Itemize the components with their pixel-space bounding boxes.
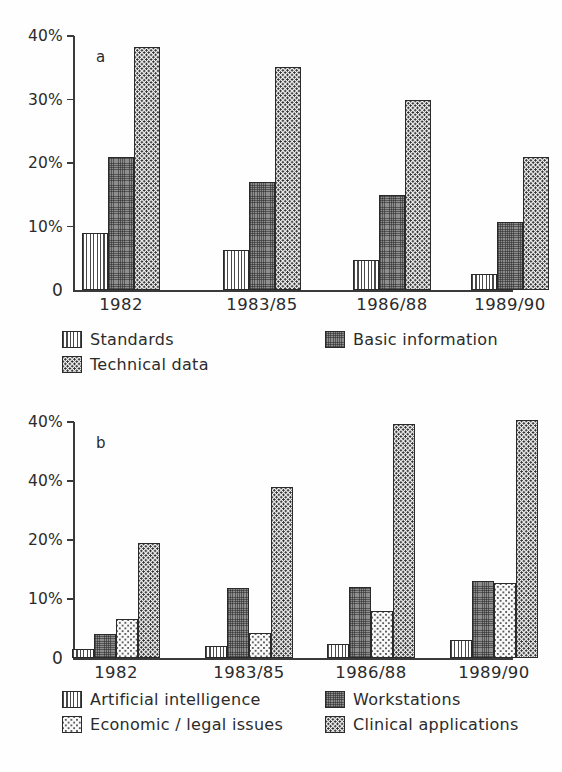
legend-label-a-0: Standards xyxy=(90,330,174,349)
bars-a-0 xyxy=(82,36,160,290)
plot-area-b: 010%20%40%40%19821983/851986/881989/90 xyxy=(73,422,513,658)
x-axis-line-b xyxy=(73,658,513,660)
legend-swatch-icon-b-1 xyxy=(325,691,345,708)
bar-group-a-0: 1982 xyxy=(82,36,160,290)
bar-a-0-2 xyxy=(134,47,160,290)
bar-b-3-2 xyxy=(494,583,516,658)
bars-b-0 xyxy=(72,422,160,658)
y-tick-a-2 xyxy=(67,162,74,164)
plot-area-a: 010%20%30%40%19821983/851986/881989/90 xyxy=(73,36,513,290)
y-tick-label-b-0: 0 xyxy=(1,648,63,668)
bar-b-1-0 xyxy=(205,646,227,658)
bar-a-1-2 xyxy=(275,67,301,290)
bar-b-3-0 xyxy=(450,640,472,658)
legend-label-b-2: Economic / legal issues xyxy=(90,715,283,734)
panel-letter-a: a xyxy=(96,48,105,66)
bar-b-0-2 xyxy=(116,619,138,658)
legend-swatch-icon-a-0 xyxy=(62,331,82,348)
bar-group-a-3: 1989/90 xyxy=(471,36,549,290)
bar-group-b-0: 1982 xyxy=(72,422,160,658)
legend-a: StandardsBasic informationTechnical data xyxy=(0,330,562,380)
x-axis-line-a xyxy=(73,290,513,292)
bar-group-a-2: 1986/88 xyxy=(353,36,431,290)
bar-a-2-2 xyxy=(405,100,431,290)
bar-group-b-1: 1983/85 xyxy=(205,422,293,658)
legend-swatch-icon-b-3 xyxy=(325,716,345,733)
legend-item-b-3[interactable]: Clinical applications xyxy=(325,715,519,734)
bar-b-2-0 xyxy=(327,644,349,658)
x-axis-label-b-0: 1982 xyxy=(94,663,138,682)
bar-b-2-1 xyxy=(349,587,371,658)
legend-label-b-1: Workstations xyxy=(353,690,461,709)
legend-item-b-1[interactable]: Workstations xyxy=(325,690,461,709)
bar-b-3-1 xyxy=(472,581,494,658)
legend-label-b-3: Clinical applications xyxy=(353,715,519,734)
x-axis-label-b-2: 1986/88 xyxy=(335,663,406,682)
bar-a-3-1 xyxy=(497,222,523,290)
bars-a-1 xyxy=(223,36,301,290)
legend-item-a-1[interactable]: Basic information xyxy=(325,330,498,349)
bar-b-0-3 xyxy=(138,543,160,658)
bars-b-1 xyxy=(205,422,293,658)
x-axis-label-a-3: 1989/90 xyxy=(474,295,545,314)
legend-row-b-1: Economic / legal issuesClinical applicat… xyxy=(0,715,562,740)
y-tick-a-4 xyxy=(67,35,74,37)
bar-b-1-2 xyxy=(249,633,271,658)
y-tick-label-b-3: 40% xyxy=(1,472,63,490)
bar-group-b-3: 1989/90 xyxy=(450,422,538,658)
legend-swatch-icon-b-0 xyxy=(62,691,82,708)
bars-b-3 xyxy=(450,422,538,658)
bar-b-1-1 xyxy=(227,588,249,658)
legend-b: Artificial intelligenceWorkstationsEcono… xyxy=(0,690,562,740)
y-tick-label-b-4: 40% xyxy=(1,413,63,431)
bars-a-2 xyxy=(353,36,431,290)
y-tick-label-a-3: 30% xyxy=(1,90,63,108)
chart-panel-b: 010%20%40%40%19821983/851986/881989/90 b… xyxy=(0,390,562,772)
legend-label-a-2: Technical data xyxy=(90,355,209,374)
x-axis-label-b-3: 1989/90 xyxy=(458,663,529,682)
y-tick-label-a-0: 0 xyxy=(1,280,63,300)
legend-item-b-2[interactable]: Economic / legal issues xyxy=(62,715,283,734)
x-axis-label-a-2: 1986/88 xyxy=(356,295,427,314)
bar-b-2-2 xyxy=(371,611,393,658)
legend-row-b-0: Artificial intelligenceWorkstations xyxy=(0,690,562,715)
legend-item-a-0[interactable]: Standards xyxy=(62,330,174,349)
bars-a-3 xyxy=(471,36,549,290)
figure-caption xyxy=(0,760,562,772)
y-tick-label-b-2: 20% xyxy=(1,531,63,549)
bar-a-1-1 xyxy=(249,182,275,290)
legend-item-a-2[interactable]: Technical data xyxy=(62,355,209,374)
x-axis-label-a-1: 1983/85 xyxy=(226,295,297,314)
bars-b-2 xyxy=(327,422,415,658)
bar-group-a-1: 1983/85 xyxy=(223,36,301,290)
bar-b-0-1 xyxy=(94,634,116,658)
x-axis-label-b-1: 1983/85 xyxy=(213,663,284,682)
y-tick-label-b-1: 10% xyxy=(1,590,63,608)
bar-a-0-0 xyxy=(82,233,108,290)
legend-swatch-icon-a-1 xyxy=(325,331,345,348)
bar-a-3-2 xyxy=(523,157,549,290)
bar-a-0-1 xyxy=(108,157,134,290)
legend-item-b-0[interactable]: Artificial intelligence xyxy=(62,690,261,709)
bar-b-0-0 xyxy=(72,649,94,658)
bar-b-2-3 xyxy=(393,424,415,658)
bar-b-3-3 xyxy=(516,420,538,658)
y-tick-a-1 xyxy=(67,226,74,228)
chart-panel-a: 010%20%30%40%19821983/851986/881989/90 a… xyxy=(0,0,562,390)
y-tick-label-a-4: 40% xyxy=(1,27,63,45)
x-axis-label-a-0: 1982 xyxy=(99,295,143,314)
bar-a-3-0 xyxy=(471,274,497,291)
legend-swatch-icon-a-2 xyxy=(62,356,82,373)
bar-group-b-2: 1986/88 xyxy=(327,422,415,658)
legend-swatch-icon-b-2 xyxy=(62,716,82,733)
bar-a-2-0 xyxy=(353,260,379,290)
y-tick-label-a-2: 20% xyxy=(1,154,63,172)
bar-a-2-1 xyxy=(379,195,405,290)
y-tick-a-3 xyxy=(67,99,74,101)
legend-label-a-1: Basic information xyxy=(353,330,498,349)
legend-label-b-0: Artificial intelligence xyxy=(90,690,261,709)
bar-b-1-3 xyxy=(271,487,293,658)
legend-row-a-0: StandardsBasic information xyxy=(0,330,562,355)
y-tick-label-a-1: 10% xyxy=(1,217,63,235)
bar-a-1-0 xyxy=(223,250,249,290)
